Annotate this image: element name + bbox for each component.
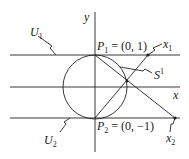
point-intersection	[126, 80, 129, 83]
x-axis-label: x	[173, 89, 178, 101]
y-axis-label: y	[84, 11, 89, 23]
leader-S1	[120, 67, 152, 73]
stereographic-diagram: y x U1 U2 P1 = (0, 1) P2 = (0, −1) x1 x2…	[0, 0, 189, 159]
label-x1: x1	[163, 38, 172, 53]
label-P1: P1 = (0, 1)	[97, 40, 147, 55]
point-x2	[173, 116, 176, 119]
leader-x1	[148, 44, 162, 55]
projection-line-from-P2	[95, 55, 148, 118]
label-x2: x2	[166, 132, 175, 147]
label-S1: S1	[154, 68, 164, 81]
label-U1: U1	[30, 26, 43, 41]
leader-x2	[170, 118, 175, 132]
projection-line-from-P1	[95, 55, 175, 118]
label-U2: U2	[44, 134, 57, 149]
leader-U2	[60, 118, 70, 132]
label-P2: P2 = (0, −1)	[97, 120, 154, 135]
